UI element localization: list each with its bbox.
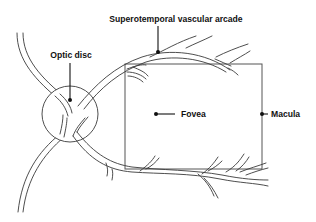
vessel-superior-arcade [78, 36, 250, 109]
retina-diagram: Superotemporal vascular arcade Optic dis… [0, 0, 316, 222]
macula-label: Macula [271, 109, 300, 119]
diagram-svg: Superotemporal vascular arcade Optic dis… [0, 0, 316, 222]
arcade-pointer-dot [156, 50, 160, 54]
fovea-label: Fovea [181, 109, 206, 119]
vessel-inferior-arcade [73, 132, 268, 198]
optic-disc-pointer-dot [68, 98, 72, 102]
arcade-label: Superotemporal vascular arcade [109, 14, 242, 24]
optic-disc-label: Optic disc [50, 50, 92, 60]
vessel-lower-left [18, 134, 64, 212]
